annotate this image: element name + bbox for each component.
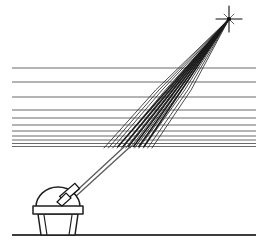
starlight-core-ray-6 xyxy=(144,19,229,147)
atmospheric-seeing-diagram: Starlight passing through Earth's atmosp… xyxy=(0,0,264,252)
atmosphere-layers xyxy=(12,68,256,147)
figure-root: Line drawing: a star at upper right emit… xyxy=(0,0,264,252)
starlight-beam-to-telescope xyxy=(71,146,131,198)
telescope-beam-edge-right xyxy=(74,146,131,198)
starlight-ray-bundle xyxy=(104,19,229,148)
observatory-building xyxy=(33,183,83,235)
star-core xyxy=(227,17,231,21)
observatory-dome-ring xyxy=(33,206,83,214)
